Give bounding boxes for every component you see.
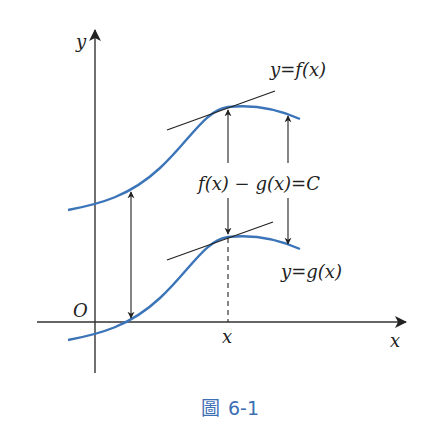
g-curve [68, 236, 300, 340]
caption-prefix: 圖 [201, 397, 220, 419]
x-tick-label: x [222, 326, 232, 347]
x-axis-label: x [390, 330, 400, 351]
figure-diagram: y O x x y=f(x) y=g(x) f(x) − g(x)=C 圖 6-… [0, 0, 429, 445]
f-curve [68, 106, 300, 210]
origin-label: O [73, 300, 88, 321]
g-curve-label: y=g(x) [280, 261, 342, 282]
y-axis-label: y [75, 31, 87, 52]
axes [37, 30, 406, 373]
caption-number: 6-1 [228, 397, 259, 419]
f-tangent-line [167, 91, 275, 130]
difference-label: f(x) − g(x)=C [196, 173, 320, 194]
f-curve-label: y=f(x) [269, 59, 326, 80]
g-tangent-line [167, 222, 273, 260]
